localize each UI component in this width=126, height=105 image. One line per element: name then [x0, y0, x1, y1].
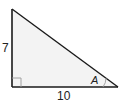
triangle-diagram: 7 10 A [0, 0, 126, 105]
vertical-side-label: 7 [2, 41, 9, 55]
angle-label: A [90, 74, 98, 86]
horizontal-side-label: 10 [57, 89, 71, 103]
